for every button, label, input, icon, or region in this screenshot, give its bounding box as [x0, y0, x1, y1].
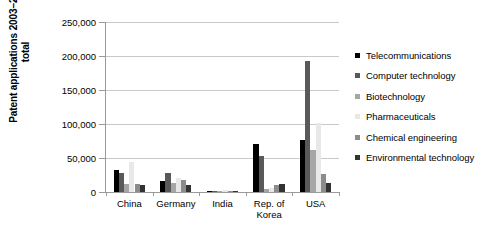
y-axis-tick-label: 100,000	[36, 119, 96, 130]
y-axis-tick	[99, 124, 105, 125]
legend-item-label: Pharmaceuticals	[366, 111, 435, 122]
patent-applications-bar-chart: Patent applications 2003–2007 total 050,…	[0, 0, 499, 230]
legend-swatch-icon	[355, 73, 360, 78]
bar-group	[246, 22, 293, 192]
y-axis-title-line-1: Patent applications 2003–2007	[8, 0, 19, 123]
legend-swatch-icon	[355, 53, 360, 58]
y-axis-tick-label: 150,000	[36, 85, 96, 96]
legend-item-label: Biotechnology	[366, 91, 425, 102]
legend-swatch-icon	[355, 155, 360, 160]
y-axis-title-line-2: total	[20, 42, 31, 63]
x-axis-label: China	[106, 198, 153, 209]
bar	[279, 184, 284, 192]
chart-legend: TelecommunicationsComputer technologyBio…	[355, 45, 499, 168]
bar-group	[153, 22, 200, 192]
y-axis-tick	[99, 158, 105, 159]
y-axis-tick-label: 250,000	[36, 17, 96, 28]
bar	[186, 185, 191, 192]
legend-item: Environmental technology	[355, 148, 499, 169]
legend-item-label: Telecommunications	[366, 50, 451, 61]
bar	[233, 191, 238, 192]
bar-group	[292, 22, 339, 192]
x-axis-label: USA	[292, 198, 339, 209]
legend-swatch-icon	[355, 135, 360, 140]
bar	[259, 156, 264, 192]
legend-item: Computer technology	[355, 66, 499, 87]
legend-item: Biotechnology	[355, 86, 499, 107]
bar-group	[199, 22, 246, 192]
bar	[326, 183, 331, 192]
legend-item: Telecommunications	[355, 45, 499, 66]
x-axis-tick	[292, 192, 293, 196]
legend-item-label: Chemical engineering	[366, 132, 457, 143]
y-axis-title: Patent applications 2003–2007 total	[8, 0, 32, 142]
y-axis-tick-label: 0	[36, 187, 96, 198]
legend-item: Pharmaceuticals	[355, 107, 499, 128]
bar-group	[106, 22, 153, 192]
y-axis-tick	[99, 56, 105, 57]
y-axis-tick	[99, 90, 105, 91]
legend-item-label: Computer technology	[366, 70, 455, 81]
x-axis-label: India	[199, 198, 246, 209]
legend-item: Chemical engineering	[355, 127, 499, 148]
y-axis-tick-label: 200,000	[36, 51, 96, 62]
x-axis-tick	[199, 192, 200, 196]
y-axis-tick-label: 50,000	[36, 153, 96, 164]
y-axis-tick	[99, 192, 105, 193]
plot-area: 050,000100,000150,000200,000250,000 Chin…	[105, 22, 339, 193]
legend-swatch-icon	[355, 94, 360, 99]
y-axis-tick	[99, 22, 105, 23]
bar	[140, 185, 145, 192]
legend-item-label: Environmental technology	[366, 152, 474, 163]
legend-swatch-icon	[355, 114, 360, 119]
bar-groups	[106, 22, 339, 192]
x-axis-label: Rep. of Korea	[246, 198, 293, 220]
x-axis-tick	[339, 192, 340, 196]
x-axis-tick	[246, 192, 247, 196]
x-axis-tick	[106, 192, 107, 196]
x-axis-tick	[153, 192, 154, 196]
x-axis-label: Germany	[153, 198, 200, 209]
